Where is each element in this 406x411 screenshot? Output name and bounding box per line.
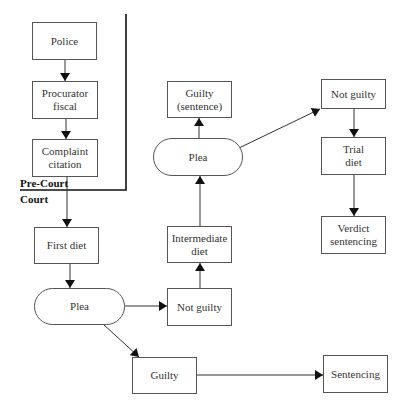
criminal-procedure-flowchart: Pre-Court Court Police Procurator fiscal… xyxy=(0,0,406,411)
node-first-diet: First diet xyxy=(34,227,99,264)
node-verdict-sentencing: Verdict sentencing xyxy=(321,216,386,254)
pre-court-label: Pre-Court xyxy=(20,177,68,189)
node-plea-first: Plea xyxy=(34,288,125,325)
node-intermediate-diet: Intermediate diet xyxy=(167,226,232,263)
node-plea-second: Plea xyxy=(153,138,243,176)
connector-layer xyxy=(0,0,406,411)
node-police: Police xyxy=(32,22,97,60)
node-procurator-fiscal: Procurator fiscal xyxy=(32,81,98,119)
node-not-guilty-second: Not guilty xyxy=(321,79,386,109)
node-not-guilty-first: Not guilty xyxy=(167,288,232,326)
node-guilty-first: Guilty xyxy=(132,357,197,394)
node-sentencing: Sentencing xyxy=(323,355,388,393)
node-guilty-sentence: Guilty (sentence) xyxy=(167,81,232,118)
arrow-plea-to-not-guilty-upper xyxy=(239,109,320,148)
node-trial-diet: Trial diet xyxy=(321,137,386,175)
court-label: Court xyxy=(20,193,48,205)
arrow-plea-to-guilty xyxy=(103,324,139,357)
node-complaint-citation: Complaint citation xyxy=(32,139,98,177)
